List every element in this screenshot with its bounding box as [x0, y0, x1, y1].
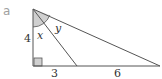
label-bottom-right: 6 [114, 67, 121, 79]
label-left-side: 4 [24, 32, 31, 45]
hypotenuse [33, 9, 160, 66]
part-label: a [3, 4, 10, 18]
right-angle-marker [34, 58, 42, 66]
label-bottom-left: 3 [51, 67, 58, 79]
triangle-diagram: a 4 x y 3 6 [0, 0, 162, 79]
label-angle-y: y [54, 22, 62, 35]
label-angle-x: x [37, 29, 44, 42]
